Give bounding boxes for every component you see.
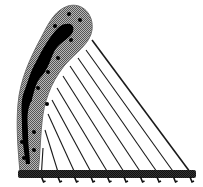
neck-dot (20, 140, 24, 144)
neck-dot (53, 24, 57, 28)
neck-dot (46, 70, 50, 74)
neck-dot (22, 116, 26, 120)
harp-string (45, 130, 58, 172)
harp-string (48, 114, 75, 172)
harp-string (86, 50, 174, 172)
neck-dot (36, 86, 40, 90)
neck-dot (78, 18, 82, 22)
neck-dot (67, 12, 71, 16)
neck-dot (28, 98, 32, 102)
harp-string (92, 40, 190, 172)
harp-string (70, 66, 141, 172)
neck-dot (45, 102, 49, 106)
harp-base (18, 170, 196, 178)
harp-illustration (0, 0, 203, 187)
neck-dot (56, 56, 60, 60)
neck-dot (22, 156, 26, 160)
neck-dot (32, 148, 36, 152)
harp-string (42, 148, 44, 172)
harp-string (57, 88, 108, 172)
neck-dot (69, 38, 73, 42)
neck-dot (32, 130, 36, 134)
